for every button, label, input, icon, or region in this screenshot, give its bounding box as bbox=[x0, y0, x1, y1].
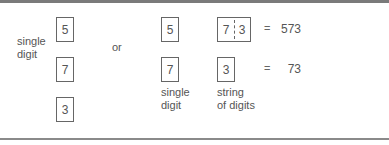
string-box-73: 7 3 bbox=[217, 17, 251, 42]
string-box-left-digit: 7 bbox=[218, 23, 234, 37]
left-digit-box-3: 3 bbox=[56, 97, 74, 122]
result-573: 573 bbox=[271, 22, 301, 36]
middle-digit-box-1: 5 bbox=[161, 17, 179, 42]
middle-label-line1: single bbox=[161, 86, 190, 99]
right-label: string of digits bbox=[217, 86, 255, 112]
top-rule bbox=[0, 0, 389, 3]
equals-sign-2: = bbox=[264, 62, 270, 74]
left-label-line2: digit bbox=[17, 48, 46, 61]
middle-label: single digit bbox=[161, 86, 190, 112]
bottom-rule bbox=[0, 138, 389, 140]
result-73: 73 bbox=[271, 62, 301, 76]
string-box-3: 3 bbox=[217, 57, 235, 82]
right-label-line2: of digits bbox=[217, 99, 255, 112]
string-box-right-digit: 3 bbox=[234, 23, 250, 37]
left-label: single digit bbox=[17, 35, 46, 61]
or-separator: or bbox=[112, 41, 122, 54]
equals-sign-1: = bbox=[264, 22, 270, 34]
dashed-divider bbox=[234, 20, 235, 39]
middle-label-line2: digit bbox=[161, 99, 190, 112]
middle-digit-box-2: 7 bbox=[161, 57, 179, 82]
left-digit-box-2: 7 bbox=[56, 57, 74, 82]
right-label-line1: string bbox=[217, 86, 255, 99]
left-label-line1: single bbox=[17, 35, 46, 48]
left-digit-box-1: 5 bbox=[56, 17, 74, 42]
